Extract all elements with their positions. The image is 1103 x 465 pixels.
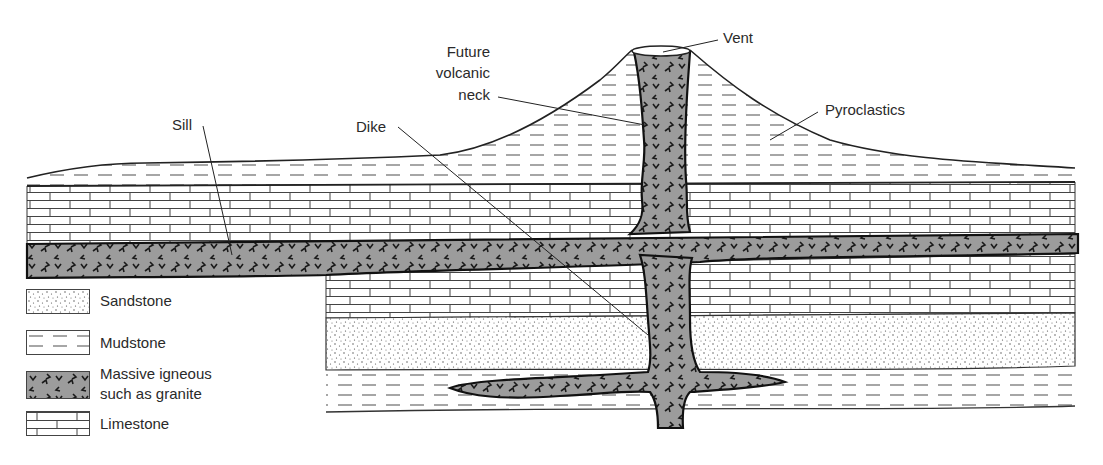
legend-item-igneous: Massive igneous such as granite — [26, 369, 366, 409]
future-neck-label-line2: volcanic — [400, 64, 490, 82]
sill-label: Sill — [172, 116, 192, 134]
limestone-swatch-icon — [26, 411, 90, 436]
igneous-swatch-icon — [26, 371, 90, 399]
future-neck-label-line3: neck — [400, 86, 490, 104]
pyroclastics-label: Pyroclastics — [825, 101, 905, 119]
legend-label-igneous-line2: such as granite — [100, 385, 202, 403]
legend-label-mudstone: Mudstone — [100, 334, 166, 352]
mudstone-swatch-icon — [26, 330, 90, 355]
geology-diagram: Vent Future volcanic neck Pyroclastics S… — [0, 0, 1103, 465]
future-neck-label-line1: Future — [400, 43, 490, 61]
vent-label: Vent — [723, 29, 753, 47]
legend-item-limestone: Limestone — [26, 411, 366, 451]
legend-item-mudstone: Mudstone — [26, 330, 366, 370]
dike-label: Dike — [356, 118, 386, 136]
sandstone-layer — [326, 313, 1075, 370]
legend-label-igneous-line1: Massive igneous — [100, 365, 212, 383]
legend-item-sandstone: Sandstone — [26, 289, 366, 329]
legend-label-sandstone: Sandstone — [100, 292, 172, 310]
sandstone-swatch-icon — [26, 289, 90, 314]
legend-label-limestone: Limestone — [100, 415, 169, 433]
